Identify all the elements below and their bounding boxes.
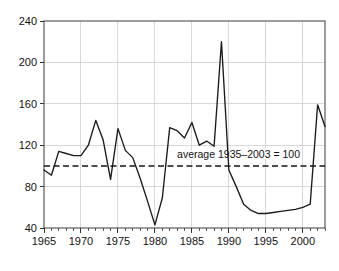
x-tick-label: 1990 bbox=[217, 235, 241, 247]
chart-figure: 4080120160200240 19651970197519801985199… bbox=[0, 0, 339, 271]
x-axis-ticks: 19651970197519801985199019952000 bbox=[32, 228, 315, 247]
y-axis-ticks: 4080120160200240 bbox=[19, 15, 44, 234]
x-tick-label: 1970 bbox=[69, 235, 93, 247]
plot-background bbox=[44, 21, 325, 228]
x-tick-label: 2000 bbox=[291, 235, 315, 247]
line-chart: 4080120160200240 19651970197519801985199… bbox=[0, 0, 339, 271]
y-tick-label: 160 bbox=[19, 98, 37, 110]
y-tick-label: 80 bbox=[25, 181, 37, 193]
x-tick-label: 1995 bbox=[254, 235, 278, 247]
y-tick-label: 120 bbox=[19, 139, 37, 151]
x-tick-label: 1985 bbox=[180, 235, 204, 247]
y-tick-label: 200 bbox=[19, 56, 37, 68]
x-tick-label: 1965 bbox=[32, 235, 56, 247]
x-tick-label: 1980 bbox=[143, 235, 167, 247]
y-tick-label: 240 bbox=[19, 15, 37, 27]
average-annotation-label: average 1935–2003 = 100 bbox=[177, 148, 300, 160]
x-tick-label: 1975 bbox=[106, 235, 130, 247]
y-tick-label: 40 bbox=[25, 222, 37, 234]
